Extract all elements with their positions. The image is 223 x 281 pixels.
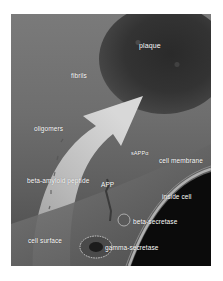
label-beta-secretase: beta-secretase [133, 218, 177, 225]
label-fibrils: fibrils [71, 72, 87, 79]
label-inside-cell: inside cell [162, 193, 192, 200]
label-cell-membrane: cell membrane [159, 157, 203, 164]
beta-secretase-complex [118, 214, 130, 226]
label-beta-amyloid-peptide: beta-amyloid peptide [27, 177, 89, 184]
label-gamma-secretase: gamma-secretase [105, 244, 159, 251]
label-oligomers: oligomers [34, 125, 63, 132]
label-plaque: plaque [139, 42, 161, 49]
illustration-frame: plaque fibrils oligomers sAPPα cell memb… [11, 14, 211, 266]
label-cell-surface: cell surface [28, 237, 62, 244]
label-sappa: sAPPα [131, 150, 148, 156]
label-app: APP [101, 181, 114, 188]
